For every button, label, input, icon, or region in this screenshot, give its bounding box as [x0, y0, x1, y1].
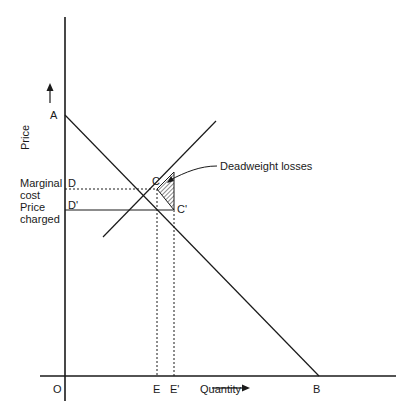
- deadweight-losses-annotation: Deadweight losses: [220, 160, 312, 172]
- price-charged-label-line1: Price: [20, 201, 45, 213]
- demand-line: [65, 115, 319, 376]
- marginal-cost-label-line1: Marginal: [20, 177, 62, 189]
- point-a-label: A: [50, 109, 57, 121]
- point-b-label: B: [313, 383, 320, 395]
- point-e-prime-label: E': [170, 383, 179, 395]
- origin-label: O: [53, 383, 62, 395]
- point-c-prime-label: C': [177, 203, 187, 215]
- x-axis-label: Quantity: [200, 383, 241, 395]
- price-arrowhead-icon: [47, 83, 54, 91]
- point-d-prime-label: D': [68, 199, 78, 211]
- marginal-cost-label-line2: cost: [20, 189, 40, 201]
- price-charged-label-line2: charged: [20, 213, 60, 225]
- diagram-canvas: [0, 0, 414, 415]
- annotation-pointer: [170, 166, 217, 180]
- point-d-label: D: [68, 177, 76, 189]
- y-axis-label: Price: [19, 125, 31, 150]
- point-e-label: E: [153, 383, 160, 395]
- point-c-label: C: [152, 175, 160, 187]
- quantity-arrowhead-icon: [242, 385, 250, 392]
